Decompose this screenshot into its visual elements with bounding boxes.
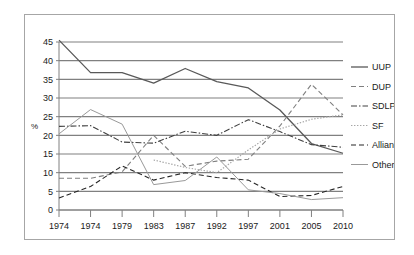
y-tick-label: 10	[43, 168, 53, 178]
y-tick-label: 5	[48, 187, 53, 197]
x-tick-label: 1979	[112, 221, 132, 231]
y-tick-labels-group: 051015202530354045	[43, 37, 53, 215]
y-tick-label: 45	[43, 37, 53, 47]
y-axis-title: %	[31, 122, 38, 131]
x-tick-label: 1992	[207, 221, 227, 231]
chart-frame: 051015202530354045 % 1974197419791983198…	[24, 14, 395, 240]
x-tick-label: 1974	[81, 221, 101, 231]
legend-group: UUPDUPSDLPSFAllianceOther	[351, 62, 394, 169]
y-tick-label: 25	[43, 112, 53, 122]
series-line-sdlp	[59, 120, 343, 148]
chart-figure: 051015202530354045 % 1974197419791983198…	[0, 0, 414, 255]
y-tick-label: 35	[43, 75, 53, 85]
x-tick-label: 1997	[238, 221, 258, 231]
series-line-alliance	[59, 166, 343, 198]
legend-label-alliance: Alliance	[372, 140, 394, 150]
x-axis-group	[59, 42, 343, 210]
x-tick-label: 1987	[175, 221, 195, 231]
y-tick-label: 15	[43, 149, 53, 159]
x-tick-label: 1974	[49, 221, 69, 231]
legend-label-sdlp: SDLP	[372, 101, 394, 111]
series-line-uup	[59, 40, 343, 153]
y-tick-label: 0	[48, 205, 53, 215]
x-tick-marks-group	[59, 210, 343, 217]
y-tick-label: 30	[43, 93, 53, 103]
legend-label-sf: SF	[372, 121, 384, 131]
y-tick-label: 40	[43, 56, 53, 66]
gridlines-group	[59, 42, 343, 210]
x-tick-label: 2001	[270, 221, 290, 231]
line-chart-canvas: 051015202530354045 % 1974197419791983198…	[25, 15, 394, 239]
legend-label-other: Other	[372, 160, 394, 170]
x-tick-labels-group: 1974197419791983198719921997200120052010	[49, 221, 353, 231]
x-tick-label: 2010	[333, 221, 353, 231]
y-tick-label: 20	[43, 131, 53, 141]
legend-label-dup: DUP	[372, 82, 391, 92]
y-axis-title-group: %	[31, 122, 38, 131]
legend-label-uup: UUP	[372, 62, 391, 72]
x-tick-label: 2005	[301, 221, 321, 231]
x-tick-label: 1983	[144, 221, 164, 231]
series-lines-group	[59, 40, 343, 199]
